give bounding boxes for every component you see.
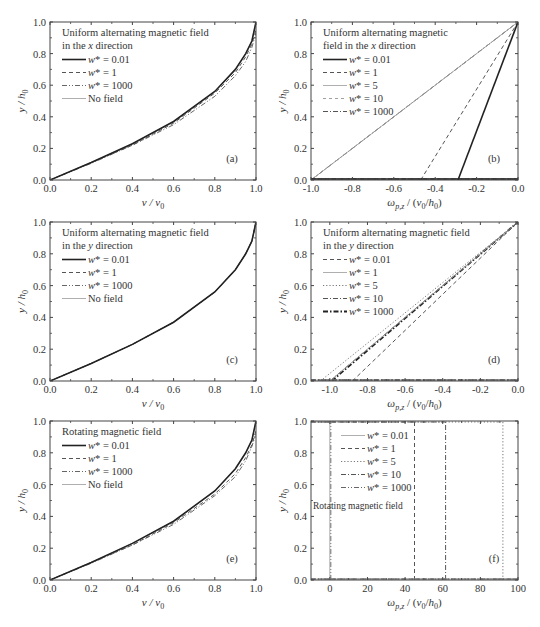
legend-entry: w* = 1000 <box>349 306 393 317</box>
y-tick-label: 0.8 <box>294 49 307 60</box>
legend-entry: w* = 0.01 <box>88 254 130 265</box>
y-tick-label: 0.0 <box>294 575 307 586</box>
x-tick-label: 40 <box>400 583 411 594</box>
y-tick-label: 0.4 <box>33 312 47 323</box>
x-tick-label: -0.2 <box>472 384 489 395</box>
legend-title: in the x direction <box>62 40 134 51</box>
x-tick-label: 0.4 <box>126 583 140 594</box>
x-axis-label: v / v0 <box>142 397 164 412</box>
panel-label: (b) <box>488 153 501 165</box>
y-tick-label: 1.0 <box>33 416 46 427</box>
legend: Uniform alternating magnetic fieldin the… <box>62 227 209 304</box>
x-axis-label: v / v0 <box>142 596 164 611</box>
y-tick-label: 0.6 <box>33 281 46 292</box>
y-tick-label: 0.2 <box>294 543 307 554</box>
y-axis-label: y / h0 <box>15 90 30 114</box>
y-tick-label: 0.4 <box>294 511 308 522</box>
x-tick-label: 0 <box>327 583 332 594</box>
legend-entry: w* = 1 <box>349 267 378 278</box>
y-tick-label: 0.6 <box>33 480 46 491</box>
legend-entry: w* = 1000 <box>88 80 132 91</box>
x-tick-label: 1.0 <box>249 384 262 395</box>
y-tick-label: 0.8 <box>294 249 307 260</box>
legend-entry: w* = 10 <box>349 293 383 304</box>
x-tick-label: 0.2 <box>85 384 98 395</box>
legend-title: Uniform alternating magnetic field <box>62 27 209 38</box>
x-tick-label: 60 <box>437 583 448 594</box>
x-tick-label: 1.0 <box>249 583 262 594</box>
panel-label: (f) <box>489 553 500 565</box>
y-axis-label: y / h0 <box>15 489 30 513</box>
legend-entry: w* = 0.01 <box>88 440 130 451</box>
legend: Rotating magnetic fieldw* = 0.01w* = 1w*… <box>62 426 162 490</box>
y-axis-label: y / h0 <box>276 290 291 314</box>
chart-panel-e: 0.00.20.40.60.81.00.00.20.40.60.81.0v / … <box>15 416 263 611</box>
chart-panel-b: -1.0-0.8-0.6-0.4-0.20.00.00.20.40.60.81.… <box>276 17 525 211</box>
y-tick-label: 0.6 <box>294 480 307 491</box>
x-tick-label: -0.4 <box>427 183 444 194</box>
panel-label: (e) <box>226 553 238 565</box>
y-tick-label: 0.4 <box>33 112 47 123</box>
y-tick-label: 0.6 <box>33 80 46 91</box>
y-tick-label: 0.4 <box>33 511 47 522</box>
series-line <box>50 434 256 580</box>
x-tick-label: -0.6 <box>385 183 402 194</box>
y-tick-label: 0.4 <box>294 312 308 323</box>
panel-label: (c) <box>226 354 238 366</box>
legend: Uniform alternating magnetic fieldin the… <box>323 227 470 317</box>
legend-entry: w* = 5 <box>349 280 378 291</box>
y-tick-label: 0.0 <box>33 175 46 186</box>
x-tick-label: 1.0 <box>249 183 262 194</box>
legend-entry: w* = 10 <box>349 93 383 104</box>
x-tick-label: 0.8 <box>208 183 221 194</box>
y-tick-label: 0.0 <box>294 376 307 387</box>
legend-entry: No field <box>88 93 123 104</box>
figure-canvas: 0.00.20.40.60.81.00.00.20.40.60.81.0v / … <box>0 0 540 627</box>
legend-entry: w* = 1000 <box>88 466 132 477</box>
x-tick-label: 0.2 <box>85 583 98 594</box>
y-tick-label: 0.2 <box>294 143 307 154</box>
panel-label: (a) <box>226 153 238 165</box>
y-tick-label: 0.8 <box>294 448 307 459</box>
x-tick-label: 0.8 <box>208 583 221 594</box>
y-tick-label: 0.2 <box>33 344 46 355</box>
y-tick-label: 0.0 <box>294 175 307 186</box>
legend-entry: w* = 0.01 <box>88 54 130 65</box>
legend-title: Uniform alternating magnetic field <box>323 227 470 238</box>
y-tick-label: 0.4 <box>294 112 308 123</box>
x-tick-label: -0.8 <box>359 384 376 395</box>
legend-entry: w* = 0.01 <box>349 54 391 65</box>
legend-entry: No field <box>88 479 123 490</box>
x-tick-label: 0.6 <box>167 384 180 395</box>
y-tick-label: 0.8 <box>33 249 46 260</box>
x-tick-label: 0.0 <box>511 183 524 194</box>
x-tick-label: 0.6 <box>167 583 180 594</box>
panel-label: (d) <box>488 354 501 366</box>
x-tick-label: 20 <box>362 583 373 594</box>
x-axis-label: v / v0 <box>142 196 164 211</box>
x-tick-label: 0.4 <box>126 384 140 395</box>
series-line <box>50 30 256 180</box>
y-tick-label: 1.0 <box>294 17 307 28</box>
legend-entry: w* = 1 <box>349 67 378 78</box>
x-tick-label: -0.4 <box>434 384 451 395</box>
legend: Uniform alternating magnetic fieldin the… <box>62 27 209 104</box>
series-line <box>50 431 256 581</box>
x-tick-label: 0.6 <box>167 183 180 194</box>
legend-entry: w* = 1000 <box>88 280 132 291</box>
legend-entry: w* = 5 <box>367 456 396 467</box>
y-tick-label: 1.0 <box>33 17 46 28</box>
legend-entry: w* = 5 <box>349 80 378 91</box>
legend-entry: w* = 1 <box>88 453 117 464</box>
legend-entry: w* = 0.01 <box>367 430 409 441</box>
y-tick-label: 1.0 <box>33 217 46 228</box>
x-tick-label: -1.0 <box>322 384 339 395</box>
legend-entry: w* = 10 <box>367 469 401 480</box>
legend-title: field in the x direction <box>323 40 416 51</box>
y-tick-label: 1.0 <box>294 416 307 427</box>
x-tick-label: -0.2 <box>468 183 485 194</box>
legend: Uniform alternating magneticfield in the… <box>323 27 448 117</box>
x-tick-label: 0.0 <box>511 384 524 395</box>
x-tick-label: 100 <box>510 583 526 594</box>
legend-entry: w* = 1000 <box>349 106 393 117</box>
